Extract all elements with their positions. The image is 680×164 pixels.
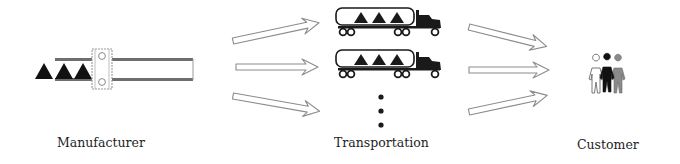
stage-label-customer: Customer bbox=[577, 137, 639, 152]
arrow-right-icon bbox=[232, 88, 321, 119]
arrows-to-customer bbox=[467, 19, 549, 120]
stage-label-transportation: Transportation bbox=[334, 135, 429, 150]
arrow-right-icon bbox=[467, 19, 548, 54]
arrow-right-icon bbox=[467, 88, 549, 120]
product-triangle-icon bbox=[74, 63, 92, 79]
product-triangle-icon bbox=[55, 63, 73, 79]
tanker-truck-icon bbox=[336, 8, 441, 35]
conveyor-belt-icon bbox=[35, 49, 193, 89]
product-triangle-icon bbox=[35, 63, 53, 79]
tanker-truck-icon bbox=[336, 50, 441, 77]
stage-label-manufacturer: Manufacturer bbox=[57, 135, 145, 150]
arrow-right-icon bbox=[236, 59, 318, 75]
vertical-ellipsis-icon bbox=[378, 94, 383, 127]
people-group-icon bbox=[589, 53, 625, 93]
arrows-to-transportation bbox=[231, 15, 321, 119]
arrow-right-icon bbox=[469, 62, 549, 78]
arrow-right-icon bbox=[231, 15, 320, 49]
